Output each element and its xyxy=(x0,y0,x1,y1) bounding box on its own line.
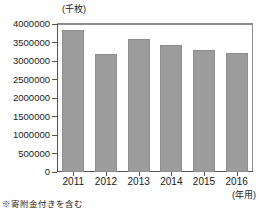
x-axis-tick-label: 2012 xyxy=(90,176,123,187)
bar-2015 xyxy=(193,50,215,172)
y-axis-tick-label: 4000000 xyxy=(13,19,50,29)
y-axis-tick xyxy=(52,116,57,117)
y-axis-tick xyxy=(52,24,57,25)
y-axis-tick xyxy=(52,98,57,99)
bar-2014 xyxy=(160,45,182,172)
x-axis-tick-label: 2011 xyxy=(57,176,90,187)
bar-2011 xyxy=(62,30,84,172)
chart-footnote: ※寄附金付きを含む xyxy=(2,197,83,209)
y-axis-tick-label: 2500000 xyxy=(13,75,50,85)
bar-2016 xyxy=(226,53,248,172)
y-axis-tick-label: 2000000 xyxy=(13,93,50,103)
x-axis-tick-label: 2016 xyxy=(220,176,253,187)
bar-2013 xyxy=(128,39,150,172)
y-axis-tick xyxy=(52,42,57,43)
y-axis-tick-label: 500000 xyxy=(18,149,50,159)
y-axis-tick-label: 3000000 xyxy=(13,56,50,66)
x-axis-tick-label: 2015 xyxy=(188,176,221,187)
y-axis-tick xyxy=(52,135,57,136)
y-axis-tick-label: 1500000 xyxy=(13,112,50,122)
y-axis-tick xyxy=(52,153,57,154)
bar-2012 xyxy=(95,54,117,172)
bar-series xyxy=(57,24,253,172)
y-axis-tick xyxy=(52,61,57,62)
y-axis-tick xyxy=(52,79,57,80)
y-axis-tick-label: 1000000 xyxy=(13,130,50,140)
x-axis-tick-label: 2014 xyxy=(155,176,188,187)
y-axis-tick-labels: 0500000100000015000002000000250000030000… xyxy=(0,0,50,211)
y-axis-tick xyxy=(52,172,57,173)
x-axis-unit-label: (年用) xyxy=(232,188,256,201)
y-axis-unit-label: (千枚) xyxy=(62,2,86,15)
y-axis-tick-label: 3500000 xyxy=(13,38,50,48)
chart-figure: (千枚) 05000001000000150000020000002500000… xyxy=(0,0,268,211)
x-axis-tick-label: 2013 xyxy=(122,176,155,187)
y-axis-tick-label: 0 xyxy=(45,167,50,177)
